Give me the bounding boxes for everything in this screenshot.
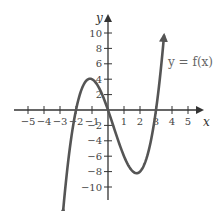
x-axis-label: x bbox=[203, 115, 210, 129]
y-tick-label: −10 bbox=[81, 182, 102, 193]
x-tick-label: 5 bbox=[185, 116, 191, 127]
y-tick-label: 6 bbox=[96, 58, 102, 69]
x-tick-label: −2 bbox=[69, 116, 84, 127]
x-tick-label: −3 bbox=[53, 116, 68, 127]
x-tick-label: −5 bbox=[21, 116, 36, 127]
function-graph: −5−4−3−2−112345108642−2−4−6−8−10 x y y =… bbox=[0, 0, 223, 211]
y-tick-label: −2 bbox=[87, 120, 102, 131]
y-tick-label: 10 bbox=[89, 28, 102, 39]
x-tick-label: 4 bbox=[169, 116, 175, 127]
x-tick-label: 1 bbox=[121, 116, 127, 127]
y-tick-label: −8 bbox=[87, 166, 102, 177]
y-tick-label: −6 bbox=[87, 151, 102, 162]
y-axis-label: y bbox=[95, 11, 103, 25]
x-tick-label: 2 bbox=[137, 116, 143, 127]
function-label: y = f(x) bbox=[167, 55, 213, 69]
y-tick-label: 8 bbox=[96, 43, 102, 54]
x-tick-label: −4 bbox=[37, 116, 52, 127]
y-tick-label: −4 bbox=[87, 135, 102, 146]
